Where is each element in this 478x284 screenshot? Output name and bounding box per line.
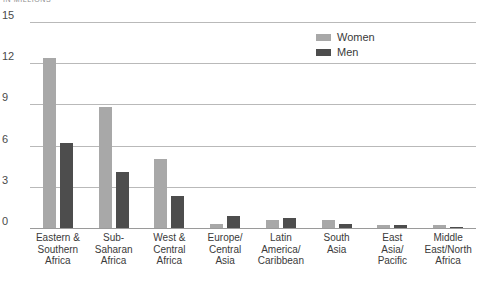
bar-men — [450, 227, 463, 228]
legend: Women Men — [316, 31, 375, 61]
men-swatch-icon — [316, 49, 331, 56]
bar-group — [142, 22, 198, 228]
bar-men — [227, 216, 240, 228]
bar-women — [210, 224, 223, 228]
y-tick-label-0: 0 — [2, 216, 26, 227]
bar-group — [30, 22, 86, 228]
legend-item-women: Women — [316, 31, 375, 43]
category-label: Europe/ Central Asia — [197, 232, 253, 267]
bar-men — [283, 218, 296, 228]
y-tick-label-15: 15 — [2, 10, 26, 21]
bar-men — [394, 225, 407, 228]
category-label: Eastern & Southern Africa — [30, 232, 86, 267]
category-label: South Asia — [309, 232, 365, 267]
bar-women — [266, 220, 279, 228]
y-tick-label-12: 12 — [2, 51, 26, 62]
bar-group — [253, 22, 309, 228]
legend-label-women: Women — [337, 32, 375, 43]
y-tick-label-6: 6 — [2, 134, 26, 145]
bar-women — [322, 220, 335, 228]
y-tick-label-9: 9 — [2, 92, 26, 103]
legend-item-men: Men — [316, 46, 375, 58]
bar-men — [116, 172, 129, 228]
y-axis-unit-caption: IN MILLIONS — [3, 0, 51, 3]
category-label: Middle East/North Africa — [420, 232, 476, 267]
bar-chart: IN MILLIONS 03691215 Eastern & Southern … — [0, 0, 478, 284]
category-label: Latin America/ Caribbean — [253, 232, 309, 267]
women-swatch-icon — [316, 34, 331, 41]
bar-women — [99, 107, 112, 228]
bar-women — [154, 159, 167, 228]
category-label: West & Central Africa — [142, 232, 198, 267]
bar-women — [433, 225, 446, 228]
gridline-0 — [30, 228, 476, 229]
legend-label-men: Men — [337, 47, 358, 58]
category-label: Sub- Saharan Africa — [86, 232, 142, 267]
category-label: East Asia/ Pacific — [365, 232, 421, 267]
bar-women — [377, 225, 390, 228]
x-axis-category-labels: Eastern & Southern AfricaSub- Saharan Af… — [30, 232, 476, 267]
bar-women — [43, 58, 56, 228]
bar-men — [339, 224, 352, 228]
bar-men — [171, 196, 184, 228]
bar-group — [197, 22, 253, 228]
bar-group — [420, 22, 476, 228]
bar-group — [86, 22, 142, 228]
y-tick-label-3: 3 — [2, 175, 26, 186]
bar-men — [60, 143, 73, 228]
bar-groups — [30, 22, 476, 228]
